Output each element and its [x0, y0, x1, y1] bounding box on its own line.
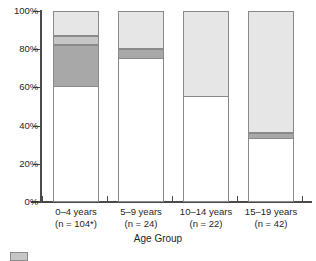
bar-segment — [53, 87, 99, 202]
x-axis-tick — [237, 196, 238, 202]
y-axis-tick-label: 80% — [0, 44, 38, 54]
y-axis-tick-label: 20% — [0, 159, 38, 169]
x-axis-tick — [42, 196, 43, 202]
bar-segment — [118, 11, 164, 49]
x-axis-group-label: 15–19 years(n = 42) — [231, 206, 311, 230]
x-axis-tick — [172, 196, 173, 202]
x-axis-title: Age Group — [0, 233, 316, 245]
x-axis-tick — [302, 196, 303, 202]
bar-segment — [248, 139, 294, 202]
x-axis-group-count: (n = 42) — [231, 218, 311, 230]
y-axis-tick-label: 40% — [0, 121, 38, 131]
y-axis-tick-label: 100% — [0, 6, 38, 16]
bar-1 — [53, 11, 99, 202]
legend — [10, 252, 34, 261]
bar-segment — [53, 36, 99, 46]
y-axis-tick-label: 60% — [0, 82, 38, 92]
x-axis-tick — [107, 196, 108, 202]
y-axis-tick-label: 0% — [0, 197, 38, 207]
bar-3 — [183, 11, 229, 202]
x-axis-group-name: 0–4 years — [55, 206, 97, 217]
bar-segment — [118, 49, 164, 59]
bar-segment — [53, 45, 99, 87]
y-axis-line — [40, 10, 42, 203]
bar-4 — [248, 11, 294, 202]
bar-segment — [248, 11, 294, 133]
x-axis-group-name: 5–9 years — [120, 206, 162, 217]
bar-segment — [248, 133, 294, 139]
bar-segment — [183, 97, 229, 202]
bar-segment — [118, 59, 164, 202]
bar-segment — [53, 11, 99, 36]
bar-2 — [118, 11, 164, 202]
bar-segment — [183, 11, 229, 97]
legend-swatch — [10, 252, 28, 261]
x-axis-group-name: 15–19 years — [245, 206, 297, 217]
x-axis-group-name: 10–14 years — [180, 206, 232, 217]
